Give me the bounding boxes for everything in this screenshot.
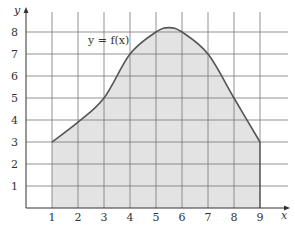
y-tick-label: 4 [11,114,18,127]
x-tick-label: 3 [101,211,108,224]
x-tick-label: 1 [49,211,56,224]
y-tick-label: 3 [11,136,18,149]
y-tick-label: 7 [11,48,18,61]
y-axis-label: y [13,4,21,17]
x-tick-label: 2 [75,211,82,224]
x-tick-label: 8 [231,211,238,224]
x-tick-label: 5 [153,211,160,224]
curve-annotation: y = f(x) [87,34,129,47]
y-axis-arrow-icon [24,7,29,13]
x-tick-label: 6 [179,211,186,224]
x-tick-label: 7 [205,211,212,224]
y-tick-label: 1 [11,180,18,193]
x-axis-label: x [281,209,288,222]
chart: 12345678912345678 y = f(x) y x [0,0,295,232]
y-tick-label: 2 [11,158,18,171]
y-tick-label: 8 [11,26,18,39]
y-tick-label: 6 [11,70,18,83]
x-tick-label: 4 [127,211,134,224]
x-tick-label: 9 [257,211,264,224]
y-tick-label: 5 [11,92,18,105]
